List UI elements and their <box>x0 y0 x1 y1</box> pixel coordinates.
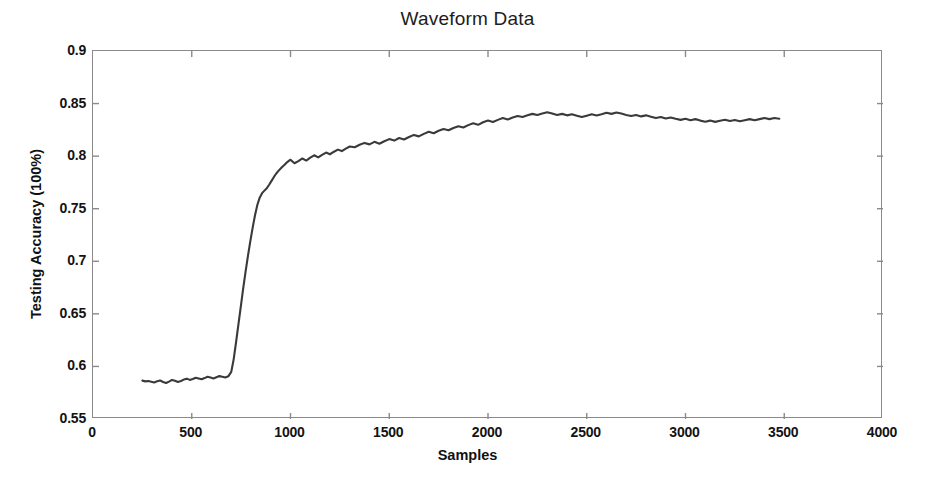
x-tick-label: 4000 <box>867 424 897 440</box>
y-tick-label: 0.6 <box>67 357 86 373</box>
line-chart-svg <box>93 51 883 419</box>
y-tick-label: 0.85 <box>60 95 86 111</box>
x-tick-label: 0 <box>88 424 96 440</box>
x-tick-label: 2500 <box>571 424 601 440</box>
y-tick-label: 0.9 <box>67 42 86 58</box>
chart-title: Waveform Data <box>0 8 935 30</box>
plot-area <box>92 50 882 418</box>
y-tick-label: 0.75 <box>60 200 86 216</box>
x-axis-tick-labels: 05001000150020002500300035004000 <box>0 424 935 448</box>
x-tick-label: 3000 <box>669 424 699 440</box>
chart-figure: Waveform Data 0.550.60.650.70.750.80.850… <box>0 0 935 478</box>
x-tick-label: 2000 <box>472 424 502 440</box>
y-tick-label: 0.65 <box>60 305 86 321</box>
x-tick-label: 1000 <box>274 424 304 440</box>
y-tick-label: 0.8 <box>67 147 86 163</box>
axis-ticks <box>93 51 883 419</box>
x-tick-label: 3500 <box>768 424 798 440</box>
y-axis-tick-labels: 0.550.60.650.70.750.80.850.9 <box>0 0 86 478</box>
data-series-line <box>142 112 779 383</box>
x-tick-label: 500 <box>179 424 202 440</box>
y-tick-label: 0.7 <box>67 252 86 268</box>
x-axis-title: Samples <box>0 447 935 463</box>
x-tick-label: 1500 <box>373 424 403 440</box>
